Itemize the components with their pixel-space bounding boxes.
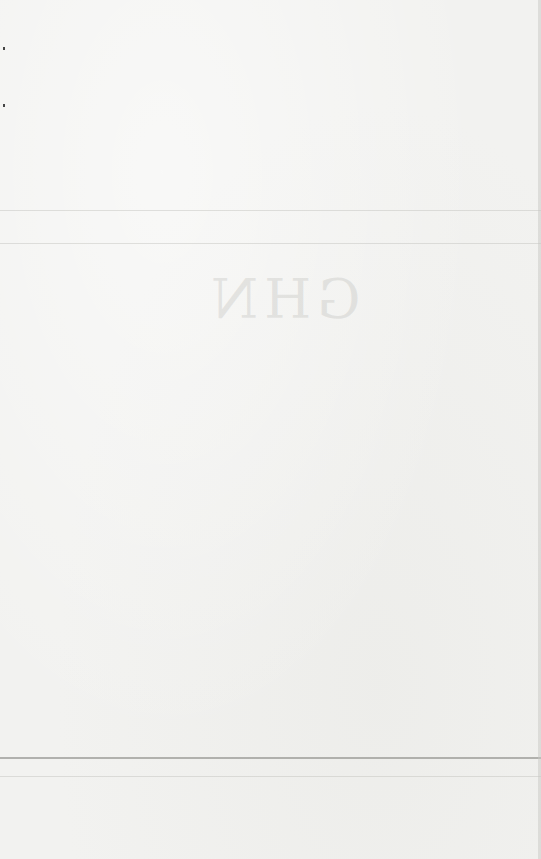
ruled-line (0, 776, 541, 777)
ruled-line (0, 757, 541, 759)
margin-mark (3, 104, 5, 107)
show-through-text: GHN (205, 268, 360, 331)
ruled-line (0, 243, 541, 244)
margin-mark (3, 47, 5, 50)
ruled-line (0, 210, 541, 211)
scanned-page: GHN (0, 0, 541, 859)
